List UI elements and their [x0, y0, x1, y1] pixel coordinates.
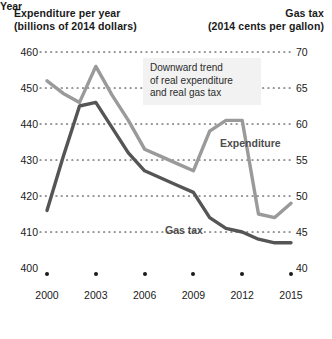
x-axis-tick-dot — [289, 272, 293, 276]
x-axis-tick-label: 2006 — [125, 289, 165, 301]
right-axis-tick-label: 55 — [296, 155, 322, 165]
right-axis-tick-label: 65 — [296, 83, 322, 93]
annotation-box: Downward trend of real expenditure and r… — [143, 58, 261, 105]
right-axis-tick-label: 70 — [296, 47, 322, 57]
right-axis-tick-label: 60 — [296, 119, 322, 129]
chart-figure: Expenditure per year (billions of 2014 d… — [0, 0, 332, 339]
left-axis-tick-label: 400 — [12, 263, 38, 273]
x-axis-tick-label: 2000 — [27, 289, 67, 301]
left-axis-tick-label: 420 — [12, 191, 38, 201]
x-axis-tick-label: 2003 — [76, 289, 116, 301]
left-axis-tick-label: 410 — [12, 227, 38, 237]
series-label-gas-tax: Gas tax — [165, 224, 203, 236]
right-axis-tick-label: 50 — [296, 191, 322, 201]
left-axis-tick-label: 440 — [12, 119, 38, 129]
x-axis-tick-label: 2009 — [173, 289, 213, 301]
left-axis-tick-label: 450 — [12, 83, 38, 93]
left-axis-tick-label: 430 — [12, 155, 38, 165]
left-axis-tick-label: 460 — [12, 47, 38, 57]
x-axis-tick-label: 2015 — [271, 289, 311, 301]
x-axis-tick-dot — [45, 272, 49, 276]
annotation-line3: and real gas tax — [150, 87, 255, 100]
annotation-line2: of real expenditure — [150, 75, 255, 88]
annotation-line1: Downward trend — [150, 62, 255, 75]
right-axis-tick-label: 45 — [296, 227, 322, 237]
x-axis-tick-label: 2012 — [222, 289, 262, 301]
right-axis-tick-label: 40 — [296, 263, 322, 273]
series-label-expenditure: Expenditure — [220, 137, 281, 149]
x-axis-tick-dot — [94, 272, 98, 276]
x-axis-tick-dot — [143, 272, 147, 276]
